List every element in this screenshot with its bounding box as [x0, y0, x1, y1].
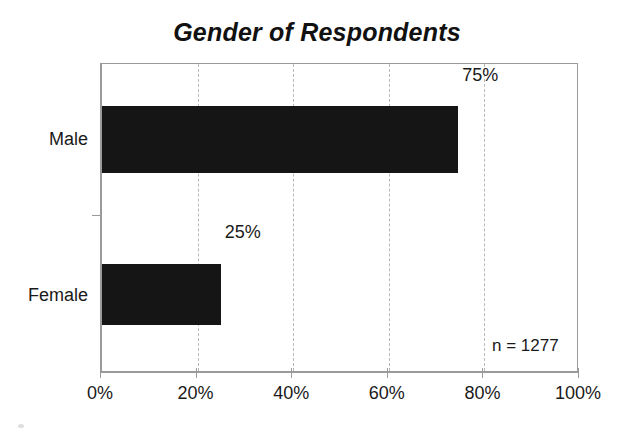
y-axis-label-female: Female — [0, 285, 88, 306]
x-axis-tick-80 — [482, 368, 483, 378]
chart-figure: Gender of Respondents Male Female 75% 25… — [0, 0, 634, 440]
x-axis-tick-label-100: 100% — [543, 383, 613, 404]
x-axis-tick-label-0: 0% — [65, 383, 135, 404]
value-label-female: 25% — [225, 222, 261, 243]
x-axis-tick-label-60: 60% — [352, 383, 422, 404]
x-axis-tick-100 — [578, 368, 579, 378]
chart-title: Gender of Respondents — [0, 18, 634, 47]
value-label-male: 75% — [462, 65, 498, 86]
bar-female[interactable] — [102, 264, 221, 325]
x-axis-tick-label-80: 80% — [447, 383, 517, 404]
gridline-80 — [484, 64, 485, 371]
x-axis-tick-label-20: 20% — [161, 383, 231, 404]
x-axis-tick-label-40: 40% — [256, 383, 326, 404]
x-axis-tick-20 — [196, 368, 197, 378]
bar-male[interactable] — [102, 106, 458, 173]
plot-area — [100, 63, 578, 373]
x-axis-tick-0 — [100, 368, 101, 378]
scan-artifact — [18, 424, 24, 428]
y-axis-label-male: Male — [0, 129, 88, 150]
x-axis-tick-40 — [291, 368, 292, 378]
x-axis-tick-60 — [387, 368, 388, 378]
sample-size-annotation: n = 1277 — [492, 336, 559, 356]
